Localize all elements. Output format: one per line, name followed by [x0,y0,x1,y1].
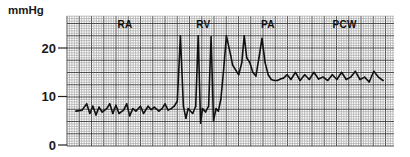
trace-point [106,108,107,109]
trace-point [140,106,141,107]
trace-point [318,78,319,79]
trace-point [86,103,87,104]
trace-point [75,110,76,111]
trace-point [277,80,278,81]
trace-point [268,74,269,75]
trace-point [295,72,296,73]
trace-point [195,106,196,107]
trace-point [109,103,110,104]
region-label-pcw: PCW [333,19,357,30]
trace-point [241,62,242,63]
trace-point [192,113,193,114]
trace-point [148,106,149,107]
trace-point [323,77,324,78]
trace-point [92,106,93,107]
trace-point [143,113,144,114]
trace-point [95,114,96,115]
trace-point [115,105,116,106]
trace-point [280,78,281,79]
trace-point [309,79,310,80]
trace-point [261,38,262,39]
trace-point [168,109,169,110]
trace-point [258,57,259,58]
grid [67,16,394,146]
trace-point [132,108,133,109]
trace-point [246,57,247,58]
y-tick-label: 10 [42,89,56,104]
trace-point [161,108,162,109]
trace-point [255,76,256,77]
trace-point [174,106,175,107]
region-label-pa: PA [261,19,275,30]
trace-point [112,113,113,114]
trace-point [235,69,236,70]
trace-point [249,62,250,63]
trace-point [208,106,209,107]
trace-point [183,106,184,107]
trace-point [332,74,333,75]
trace-point [290,79,291,80]
trace-point [205,111,206,112]
trace-point [177,101,178,102]
trace-point [171,108,172,109]
trace-point [373,71,374,72]
trace-point [118,113,119,114]
trace-point [230,55,231,56]
trace-point [213,120,214,121]
trace-point [154,107,155,108]
trace-point [89,113,90,114]
y-tick-label: 0 [49,138,56,153]
trace-point [355,71,356,72]
trace-point [300,80,301,81]
trace-point [274,80,275,81]
trace-point [187,108,188,109]
region-label-ra: RA [118,19,133,30]
y-axis: 01020 [42,41,67,153]
trace-point [287,74,288,75]
trace-point [185,118,186,119]
trace-point [218,110,219,111]
trace-point [350,77,351,78]
trace-point [123,109,124,110]
trace-point [271,79,272,80]
trace-point [215,108,216,109]
trace-point [126,103,127,104]
trace-point [327,80,328,81]
trace-point [341,72,342,73]
trace-point [252,72,253,73]
trace-point [346,79,347,80]
trace-point [304,74,305,75]
trace-point [220,98,221,99]
trace-point [129,115,130,116]
trace-point [313,72,314,73]
pressure-tracing-chart: 01020 mmHg RARVPAPCW [0,0,410,157]
trace-point [382,80,383,81]
trace-point [232,64,233,65]
trace-point [180,35,181,36]
trace-point [202,108,203,109]
trace-point [210,36,211,37]
trace-point [238,74,239,75]
region-label-rv: RV [196,19,210,30]
trace-point [244,35,245,36]
trace-point [98,107,99,108]
trace-point [336,79,337,80]
trace-point [164,103,165,104]
trace-point [364,77,365,78]
trace-point [151,109,152,110]
trace-point [369,81,370,82]
y-axis-unit-label: mmHg [8,4,44,16]
trace-point [198,35,199,36]
trace-point [101,111,102,112]
trace-point [265,62,266,63]
trace-point [223,72,224,73]
trace-point [158,110,159,111]
y-tick-label: 20 [42,41,56,56]
trace-point [378,77,379,78]
trace-point [283,77,284,78]
trace-point [135,110,136,111]
trace-point [82,109,83,110]
trace-point [359,79,360,80]
trace-point [226,35,227,36]
trace-point [200,123,201,124]
